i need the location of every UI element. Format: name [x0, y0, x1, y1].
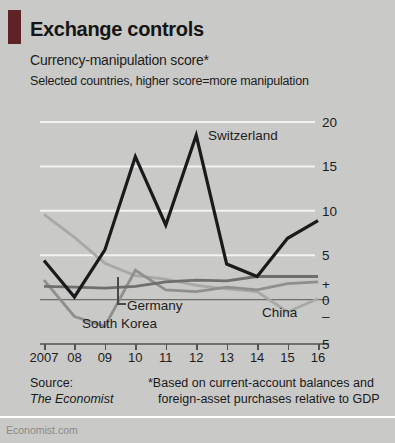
series-label-south-korea: South Korea [82, 316, 157, 331]
chart-subtitle-secondary: Selected countries, higher score=more ma… [30, 74, 309, 88]
x-axis-tick-mark [196, 344, 198, 350]
x-axis-tick-mark [105, 344, 107, 350]
footer-divider [0, 416, 395, 418]
y-axis-tick-label: – [322, 308, 330, 323]
x-axis-tick-label: 11 [159, 350, 173, 365]
x-axis-tick-mark [257, 344, 259, 350]
footnote-line-2: foreign-asset purchases relative to GDP [158, 392, 380, 406]
series-label-china: China [262, 305, 297, 320]
x-axis-tick-label: 13 [219, 350, 233, 365]
x-axis-tick-mark [74, 344, 76, 350]
x-axis-tick-label: 09 [98, 350, 112, 365]
series-line-switzerland [44, 135, 318, 297]
source-label: Source: [30, 376, 73, 390]
x-axis-tick-label: 10 [128, 350, 142, 365]
source-name: The Economist [30, 392, 113, 406]
y-axis-tick-label: 0 [322, 292, 330, 307]
y-axis-tick-label: 5 [322, 248, 330, 263]
x-axis-tick-mark [288, 344, 290, 350]
x-axis-tick-mark [135, 344, 137, 350]
watermark: Economist.com [6, 424, 78, 436]
x-axis-tick-mark [44, 344, 46, 350]
y-axis-tick-label: 10 [322, 203, 337, 218]
series-label-switzerland: Switzerland [208, 128, 278, 143]
germany-leader-vertical [117, 277, 119, 305]
chart-card: Exchange controls Currency-manipulation … [0, 0, 395, 418]
x-axis-tick-mark [318, 344, 320, 350]
x-axis-tick-label: 14 [250, 350, 264, 365]
x-axis-tick-label: 16 [311, 350, 325, 365]
page-title: Exchange controls [30, 18, 204, 41]
x-axis-tick-label: 08 [67, 350, 81, 365]
footnote-line-1: *Based on current-account balances and [148, 376, 374, 390]
x-axis-tick-label: 15 [280, 350, 294, 365]
germany-leader-horizontal [117, 303, 126, 305]
economist-tab-marker [8, 10, 21, 44]
x-axis-tick-label: 12 [189, 350, 203, 365]
x-axis-tick-label: 2007 [30, 350, 59, 365]
x-axis-tick-mark [166, 344, 168, 350]
x-axis-tick-mark [227, 344, 229, 350]
chart-footer: Source: The Economist *Based on current-… [0, 376, 395, 418]
y-axis-tick-label: 15 [322, 159, 337, 174]
chart-subtitle: Currency-manipulation score* [30, 52, 209, 68]
series-label-germany: Germany [127, 298, 183, 313]
y-axis-tick-label: + [322, 276, 330, 291]
y-axis-tick-label: 20 [322, 115, 337, 130]
